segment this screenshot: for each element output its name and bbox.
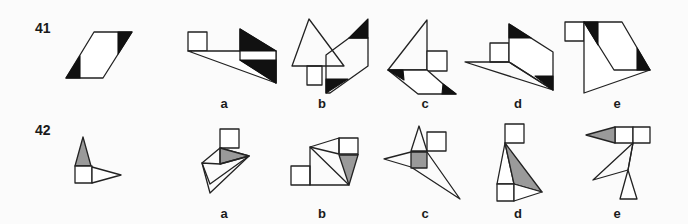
q41-option-c-figure[interactable] [388,20,456,94]
q42-stem-figure [75,137,121,183]
q42-option-b-figure[interactable] [291,138,358,185]
q41-option-e-figure[interactable] [565,22,650,93]
q41-option-d-figure[interactable] [465,24,553,90]
q42-option-e-figure[interactable] [586,127,650,199]
puzzle-figures [0,0,688,224]
q41-option-b-figure[interactable] [292,19,368,93]
q42-option-a-figure[interactable] [202,129,249,193]
q41-option-a-figure[interactable] [188,29,276,83]
q42-option-d-figure[interactable] [497,124,542,201]
q42-option-c-figure[interactable] [384,126,460,199]
q41-stem-figure [66,32,132,78]
